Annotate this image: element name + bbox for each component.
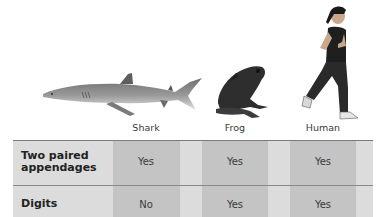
row-label-line: appendages — [21, 162, 97, 174]
trait-comparison-table: Two paired appendages Yes Yes Yes Digits… — [13, 140, 373, 217]
animal-label-frog: Frog — [202, 122, 268, 133]
column-gap — [356, 141, 373, 217]
row-divider — [13, 185, 373, 186]
animal-label-shark: Shark — [113, 122, 179, 133]
row-label-digits: Digits — [21, 198, 57, 210]
column-gap — [268, 141, 290, 217]
table-cell: Yes — [290, 156, 356, 167]
frog-icon — [210, 63, 280, 121]
shark-icon — [40, 70, 205, 120]
column-gap — [180, 141, 202, 217]
table-cell: Yes — [202, 199, 268, 210]
row-label-two-paired-appendages: Two paired appendages — [21, 150, 97, 174]
table-cell: Yes — [202, 156, 268, 167]
human-runner-icon — [296, 4, 366, 122]
table-cell: Yes — [113, 156, 179, 167]
animal-label-human: Human — [290, 122, 356, 133]
table-cell: Yes — [290, 199, 356, 210]
table-cell: No — [113, 199, 179, 210]
